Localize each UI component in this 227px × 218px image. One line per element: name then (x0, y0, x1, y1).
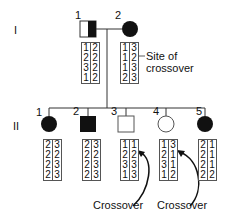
individual-number-I-2: 2 (115, 10, 121, 21)
individual-number-II-2: 2 (73, 106, 79, 117)
individual-number-II-5: 5 (196, 106, 202, 117)
haplotype-I-1: 1 2 3 1 2 2 2 2 (81, 42, 100, 84)
crossover-label-2: Crossover (157, 199, 207, 211)
haplotype-II-2: 2 2 2 2 3 2 3 3 (82, 139, 101, 181)
individual-number-II-3: 3 (111, 106, 117, 117)
generation-label-I: I (14, 24, 17, 36)
haplotype-I-2: 1 1 1 2 3 2 3 3 (120, 42, 139, 84)
haplotype-II-4: 1 2 3 1 3 1 1 2 (159, 139, 178, 181)
site-of-crossover-label: Site of crossover (146, 50, 194, 74)
generation-label-II: II (13, 120, 19, 132)
individual-I-1-symbol (80, 21, 96, 37)
crossover-arrow-2 (177, 150, 199, 206)
haplotype-II-1: 2 2 2 2 3 2 3 3 (43, 139, 62, 181)
individual-II-3-symbol (118, 116, 134, 132)
individual-II-4-symbol (158, 116, 174, 132)
individual-number-II-1: 1 (36, 107, 42, 118)
crossover-label-1: Crossover (93, 199, 143, 211)
individual-number-I-1: 1 (75, 10, 81, 21)
haplotype-II-5: 2 2 2 2 1 1 1 2 (198, 139, 217, 181)
individual-II-2-symbol (80, 116, 96, 132)
individual-II-1-symbol (41, 116, 57, 132)
haplotype-II-3: 1 2 3 1 1 2 3 3 (120, 139, 139, 181)
individual-II-5-symbol (197, 116, 213, 132)
individual-number-II-4: 4 (153, 106, 159, 117)
individual-I-2-symbol (122, 21, 138, 37)
